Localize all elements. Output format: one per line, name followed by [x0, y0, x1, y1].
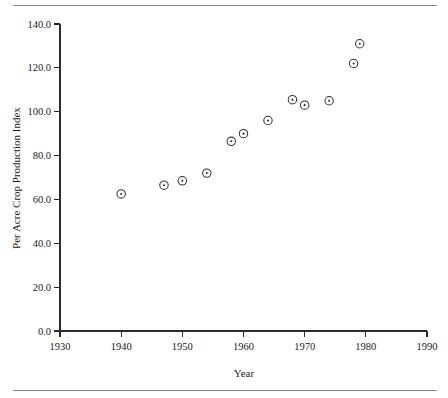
data-point — [325, 97, 333, 105]
y-tick-label: 0.0 — [38, 326, 51, 337]
x-tick-label: 1990 — [417, 341, 438, 352]
y-axis-title: Per Acre Crop Production Index — [10, 107, 22, 249]
data-point — [178, 177, 186, 185]
x-axis-title: Year — [234, 367, 255, 379]
marker-center-dot — [353, 62, 355, 64]
marker-center-dot — [304, 104, 306, 106]
marker-center-dot — [206, 172, 208, 174]
data-point — [356, 40, 364, 48]
marker-center-dot — [328, 100, 330, 102]
scatter-plot: 0.020.040.060.080.0100.0120.0140.0 19301… — [0, 0, 448, 398]
data-point — [117, 190, 125, 198]
x-axis: 1930194019501960197019801990 — [50, 331, 438, 352]
data-point — [203, 169, 211, 177]
marker-center-dot — [120, 193, 122, 195]
data-point — [288, 95, 296, 103]
data-point — [264, 116, 272, 124]
marker-center-dot — [242, 133, 244, 135]
y-tick-label: 40.0 — [33, 238, 51, 249]
marker-center-dot — [359, 43, 361, 45]
marker-center-dot — [291, 99, 293, 101]
y-tick-label: 100.0 — [27, 106, 51, 117]
x-tick-label: 1950 — [172, 341, 193, 352]
data-point — [160, 181, 168, 189]
data-markers — [117, 40, 364, 199]
y-tick-label: 80.0 — [33, 150, 51, 161]
figure-container: 0.020.040.060.080.0100.0120.0140.0 19301… — [0, 0, 448, 398]
y-tick-label: 120.0 — [27, 62, 51, 73]
y-tick-label: 20.0 — [33, 282, 51, 293]
marker-center-dot — [267, 119, 269, 121]
data-point — [349, 59, 357, 67]
y-axis: 0.020.040.060.080.0100.0120.0140.0 — [27, 19, 60, 337]
marker-center-dot — [163, 184, 165, 186]
data-point — [300, 101, 308, 109]
marker-center-dot — [230, 140, 232, 142]
marker-center-dot — [181, 180, 183, 182]
x-tick-label: 1970 — [294, 341, 315, 352]
x-tick-label: 1960 — [233, 341, 254, 352]
data-point — [227, 137, 235, 145]
y-tick-label: 140.0 — [27, 19, 51, 30]
x-tick-label: 1930 — [50, 341, 71, 352]
data-point — [239, 129, 247, 137]
x-tick-label: 1980 — [355, 341, 376, 352]
x-tick-label: 1940 — [111, 341, 132, 352]
y-tick-label: 60.0 — [33, 194, 51, 205]
